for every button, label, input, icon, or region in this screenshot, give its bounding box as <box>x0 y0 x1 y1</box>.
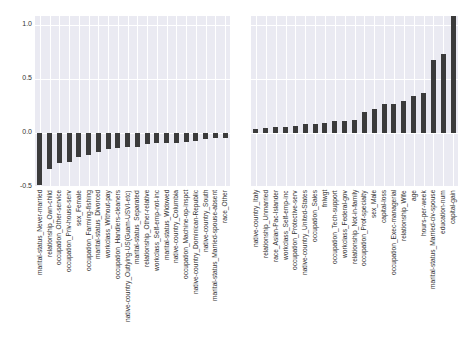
bar <box>184 133 189 142</box>
x-tick-label: occupation_Exec-managerial <box>390 190 397 275</box>
x-tick-label: occupation_Other-service <box>55 190 62 265</box>
gridline-vertical <box>315 16 316 186</box>
x-tick-label: native-country_South <box>202 190 209 252</box>
gridline-vertical <box>176 16 177 186</box>
gridline-vertical <box>225 16 226 186</box>
x-tick-label: race_Other <box>221 190 228 223</box>
x-tick-label: marital-status_Divorced <box>94 190 101 259</box>
bar <box>431 60 436 133</box>
bar <box>67 133 72 162</box>
bar <box>47 133 52 169</box>
bar <box>57 133 62 163</box>
bar <box>441 54 446 133</box>
gridline-vertical <box>384 16 385 186</box>
gridline-horizontal <box>35 25 230 26</box>
x-tick-label: native-country_Outlying-US(Guam-USVI-etc… <box>124 190 131 322</box>
gridline-vertical <box>355 16 356 186</box>
bar <box>174 133 179 143</box>
bar <box>213 133 218 138</box>
x-tick-label: workclass_Federal-gov <box>341 190 348 258</box>
y-tick-label: -0.5 <box>8 182 32 189</box>
bar <box>125 133 130 147</box>
x-tick-label: marital-status_Never-married <box>36 190 43 275</box>
gridline-vertical <box>79 16 80 186</box>
gridline-vertical <box>325 16 326 186</box>
bar <box>86 133 91 155</box>
x-tick-label: capital-gain <box>449 190 456 224</box>
x-tick-label: sex_Female <box>75 190 82 226</box>
x-tick-label: relationship_Unmarried <box>262 190 269 258</box>
y-tick-label: 1.0 <box>8 20 32 27</box>
x-tick-label: sex_Male <box>370 190 377 218</box>
bar <box>322 123 327 133</box>
gridline-vertical <box>186 16 187 186</box>
bar <box>332 121 337 133</box>
bar <box>164 133 169 143</box>
gridline-vertical <box>335 16 336 186</box>
bar <box>115 133 120 148</box>
x-tick-label: relationship_Not-in-family <box>351 190 358 264</box>
x-tick-label: occupation_Handlers-cleaners <box>114 190 121 279</box>
bar <box>411 96 416 133</box>
x-tick-label: occupation_Prof-specialty <box>360 190 367 266</box>
gridline-vertical <box>266 16 267 186</box>
bar <box>263 128 268 133</box>
bar <box>283 127 288 133</box>
bar <box>193 133 198 141</box>
bar <box>293 126 298 133</box>
bar <box>203 133 208 139</box>
bar <box>135 133 140 147</box>
gridline-vertical <box>118 16 119 186</box>
bar <box>37 133 42 185</box>
y-tick-label: 0.5 <box>8 74 32 81</box>
gridline-vertical <box>137 16 138 186</box>
gridline-horizontal <box>35 79 230 80</box>
x-tick-label: marital-status_Separated <box>133 190 140 264</box>
gridline-vertical <box>196 16 197 186</box>
x-tick-label: native-country_Dominican-Republic <box>192 190 199 294</box>
x-tick-label: workclass_Without-pay <box>104 190 111 258</box>
x-tick-label: occupation_Machine-op-inspct <box>182 190 189 279</box>
bar <box>382 104 387 133</box>
bar <box>273 127 278 133</box>
x-tick-label: native-country_United-States <box>301 190 308 275</box>
bar <box>106 133 111 149</box>
bar <box>303 124 308 133</box>
x-tick-label: relationship_Own-child <box>46 190 53 257</box>
gridline-vertical <box>305 16 306 186</box>
gridline-vertical <box>215 16 216 186</box>
x-tick-label: fnlwgt <box>321 190 328 207</box>
gridline-horizontal <box>35 187 230 188</box>
gridline-vertical <box>394 16 395 186</box>
bar <box>451 16 456 133</box>
bar <box>76 133 81 157</box>
x-tick-label: workclass_Self-emp-not-inc <box>153 190 160 271</box>
gridline-vertical <box>128 16 129 186</box>
x-tick-label: occupation_Sales <box>311 190 318 242</box>
gridline-horizontal <box>35 133 230 134</box>
gridline-vertical <box>147 16 148 186</box>
gridline-vertical <box>345 16 346 186</box>
x-tick-label: occupation_Tech-support <box>331 190 338 264</box>
bar <box>372 109 377 133</box>
x-tick-label: hours-per-week <box>420 190 427 236</box>
x-tick-label: marital-status_Married-spouse-absent <box>211 190 218 301</box>
bar <box>154 133 159 143</box>
bar <box>145 133 150 144</box>
gridline-vertical <box>89 16 90 186</box>
plot-area-left <box>35 16 230 186</box>
gridline-vertical <box>256 16 257 186</box>
plot-area-right <box>251 16 458 186</box>
gridline-vertical <box>108 16 109 186</box>
x-tick-label: age <box>410 190 417 201</box>
bar <box>223 133 228 138</box>
gridline-vertical <box>167 16 168 186</box>
x-tick-label: capital-loss <box>380 190 387 223</box>
gridline-vertical <box>295 16 296 186</box>
x-tick-label: education-num <box>439 190 446 234</box>
x-tick-label: relationship_Other-relative <box>143 190 150 267</box>
x-tick-label: occupation_Farming-fishing <box>85 190 92 271</box>
x-tick-label: occupation_Priv-house-serv <box>65 190 72 272</box>
bar <box>253 129 258 133</box>
gridline-vertical <box>206 16 207 186</box>
